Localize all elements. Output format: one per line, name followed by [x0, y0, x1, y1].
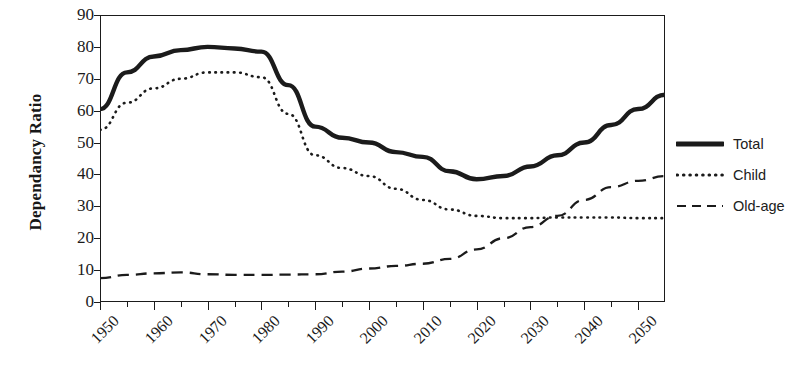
- x-tick-minor: [342, 302, 343, 307]
- x-tick-label: 2000: [348, 312, 392, 356]
- x-tick-label: 2020: [456, 312, 500, 356]
- legend-swatch-dotted-icon: [676, 168, 724, 182]
- y-tick-label: 10: [56, 261, 94, 278]
- x-tick-minor: [557, 302, 558, 307]
- x-tick-major: [530, 302, 531, 310]
- x-tick-major: [369, 302, 370, 310]
- y-tick-label: 70: [56, 70, 94, 87]
- x-tick-label: 2040: [563, 312, 607, 356]
- legend-label-total: Total: [724, 136, 764, 152]
- x-tick-minor: [450, 302, 451, 307]
- y-axis-title: Dependancy Ratio: [26, 42, 46, 282]
- chart-page: Dependancy Ratio 0102030405060708090 195…: [0, 0, 808, 386]
- x-tick-label: 1960: [133, 312, 177, 356]
- series-line-old-age: [100, 176, 665, 278]
- x-tick-minor: [396, 302, 397, 307]
- x-tick-label: 1980: [240, 312, 284, 356]
- y-tick-label: 30: [56, 197, 94, 214]
- x-tick-minor: [288, 302, 289, 307]
- x-tick-major: [638, 302, 639, 310]
- legend-label-child: Child: [724, 167, 766, 183]
- legend-label-old-age: Old-age: [724, 198, 785, 214]
- series-line-total: [100, 47, 665, 179]
- x-tick-minor: [235, 302, 236, 307]
- x-tick-minor: [504, 302, 505, 307]
- x-tick-major: [477, 302, 478, 310]
- legend-item-child: Child: [676, 159, 802, 190]
- x-tick-major: [261, 302, 262, 310]
- y-tick-label: 60: [56, 102, 94, 119]
- x-tick-label: 2030: [509, 312, 553, 356]
- plot-series-svg: [100, 15, 665, 302]
- legend-swatch-dashed-icon: [676, 199, 724, 213]
- x-tick-label: 2050: [617, 312, 661, 356]
- y-tick-label: 40: [56, 165, 94, 182]
- y-axis-tick-labels: 0102030405060708090: [50, 0, 94, 320]
- legend-swatch-solid-icon: [676, 137, 724, 151]
- x-tick-minor: [127, 302, 128, 307]
- x-tick-label: 1990: [294, 312, 338, 356]
- legend-item-old-age: Old-age: [676, 190, 802, 221]
- x-tick-minor: [181, 302, 182, 307]
- y-tick-label: 20: [56, 229, 94, 246]
- x-tick-major: [584, 302, 585, 310]
- x-tick-major: [315, 302, 316, 310]
- x-tick-label: 1970: [186, 312, 230, 356]
- x-tick-major: [208, 302, 209, 310]
- x-tick-major: [100, 302, 101, 310]
- x-tick-label: 2010: [402, 312, 446, 356]
- y-tick-label: 0: [56, 293, 94, 310]
- x-tick-major: [154, 302, 155, 310]
- x-tick-major: [423, 302, 424, 310]
- y-tick-label: 90: [56, 6, 94, 23]
- chart-legend: Total Child Old-age: [676, 128, 802, 221]
- y-tick-label: 80: [56, 38, 94, 55]
- x-tick-minor: [611, 302, 612, 307]
- legend-item-total: Total: [676, 128, 802, 159]
- y-tick-label: 50: [56, 134, 94, 151]
